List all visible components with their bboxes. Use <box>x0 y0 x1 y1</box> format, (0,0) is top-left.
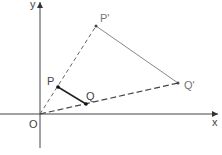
segment-PQ <box>58 87 86 104</box>
point-P-prime <box>95 25 98 28</box>
point-Q-prime-label: Q' <box>184 79 195 91</box>
point-P-prime-label: P' <box>100 12 109 24</box>
ray-O-to-Q-prime <box>40 83 178 114</box>
point-P <box>56 85 60 89</box>
origin-label: O <box>29 118 38 130</box>
enlargement-diagram: y x O P Q P' Q' <box>0 0 222 155</box>
point-Q <box>84 102 88 106</box>
x-axis-label: x <box>212 116 218 128</box>
point-P-label: P <box>47 75 54 87</box>
y-axis-label: y <box>30 0 36 10</box>
point-Q-label: Q <box>86 90 95 102</box>
diagram-canvas: y x O P Q P' Q' <box>0 0 222 155</box>
point-Q-prime <box>177 82 180 85</box>
segment-P-prime-Q-prime <box>96 26 178 83</box>
